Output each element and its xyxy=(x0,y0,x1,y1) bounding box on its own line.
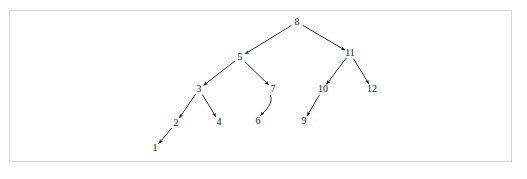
tree-node-6: 6 xyxy=(256,116,261,126)
tree-node-1: 1 xyxy=(153,143,158,153)
tree-node-9: 9 xyxy=(302,116,307,126)
figure-root: 851137101224691 xyxy=(0,0,527,179)
tree-node-4: 4 xyxy=(217,117,222,127)
tree-node-8: 8 xyxy=(295,17,300,27)
tree-node-3: 3 xyxy=(197,84,202,94)
tree-node-10: 10 xyxy=(318,84,328,94)
tree-node-7: 7 xyxy=(271,84,276,94)
tree-node-2: 2 xyxy=(174,118,179,128)
tree-node-5: 5 xyxy=(238,52,243,62)
tree-node-11: 11 xyxy=(345,48,354,58)
tree-node-12: 12 xyxy=(367,84,377,94)
diagram-frame xyxy=(9,10,512,162)
